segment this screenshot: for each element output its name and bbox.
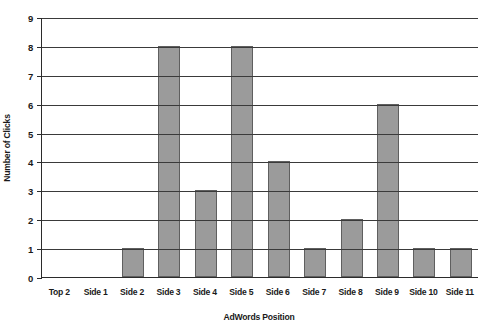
x-axis-tick-label: Side 2 xyxy=(120,287,144,297)
y-axis-tick-label: 7 xyxy=(28,70,33,81)
bar-slot xyxy=(406,18,442,277)
y-axis-tick-label: 6 xyxy=(28,99,33,110)
bar[interactable] xyxy=(377,104,399,277)
x-axis-tick-label: Side 10 xyxy=(409,287,437,297)
y-axis-tick-label: 5 xyxy=(28,128,33,139)
y-axis-tick xyxy=(37,47,42,48)
bar[interactable] xyxy=(341,219,363,277)
gridline xyxy=(42,134,478,135)
gridline xyxy=(42,105,478,106)
x-axis-tick-label: Side 3 xyxy=(157,287,181,297)
x-axis-tick-label: Side 5 xyxy=(229,287,253,297)
chart-screenshot: Number of Clicks AdWords Position 012345… xyxy=(0,0,496,331)
gridline xyxy=(42,76,478,77)
x-axis-tick-label: Side 4 xyxy=(193,287,217,297)
bar-slot xyxy=(224,18,260,277)
x-axis-tick-label: Side 6 xyxy=(266,287,290,297)
bar-slot xyxy=(370,18,406,277)
bar[interactable] xyxy=(268,161,290,277)
y-axis-tick xyxy=(37,191,42,192)
y-axis-tick xyxy=(37,134,42,135)
bars-group xyxy=(42,18,478,277)
y-axis-tick-label: 1 xyxy=(28,244,33,255)
bar-slot xyxy=(42,18,78,277)
x-axis-tick-label: Side 11 xyxy=(446,287,474,297)
y-axis-tick-label: 0 xyxy=(28,273,33,284)
y-axis-title: Number of Clicks xyxy=(2,114,12,181)
x-axis-tick-label: Side 7 xyxy=(302,287,326,297)
x-axis-tick-label: Side 8 xyxy=(339,287,363,297)
y-axis-tick xyxy=(37,249,42,250)
y-axis-tick-label: 2 xyxy=(28,215,33,226)
bar-slot xyxy=(261,18,297,277)
gridline xyxy=(42,47,478,48)
bar[interactable] xyxy=(122,248,144,277)
gridline xyxy=(42,191,478,192)
gridline xyxy=(42,18,478,19)
y-axis-tick xyxy=(37,220,42,221)
gridline xyxy=(42,249,478,250)
y-axis-tick-label: 4 xyxy=(28,157,33,168)
plot-area: 0123456789 xyxy=(41,18,478,278)
gridline xyxy=(42,220,478,221)
x-axis-title: AdWords Position xyxy=(223,312,294,322)
y-axis-tick-label: 8 xyxy=(28,41,33,52)
gridline xyxy=(42,162,478,163)
x-axis-tick-label: Side 9 xyxy=(375,287,399,297)
bar-slot xyxy=(78,18,114,277)
bar[interactable] xyxy=(450,248,472,277)
bar-slot xyxy=(443,18,479,277)
x-axis-tick-label: Side 1 xyxy=(84,287,108,297)
bar-slot xyxy=(297,18,333,277)
bar-slot xyxy=(115,18,151,277)
y-axis-tick xyxy=(37,105,42,106)
y-axis-tick xyxy=(37,162,42,163)
y-axis-tick xyxy=(37,278,42,279)
bar[interactable] xyxy=(195,190,217,277)
bar[interactable] xyxy=(304,248,326,277)
bar-slot xyxy=(188,18,224,277)
y-axis-tick xyxy=(37,76,42,77)
y-axis-tick-label: 3 xyxy=(28,186,33,197)
x-axis-tick-label: Top 2 xyxy=(49,287,70,297)
bar[interactable] xyxy=(413,248,435,277)
bar[interactable] xyxy=(158,46,180,277)
y-axis-tick xyxy=(37,18,42,19)
y-axis-tick-label: 9 xyxy=(28,13,33,24)
bar-slot xyxy=(333,18,369,277)
bar-slot xyxy=(151,18,187,277)
bar[interactable] xyxy=(231,46,253,277)
